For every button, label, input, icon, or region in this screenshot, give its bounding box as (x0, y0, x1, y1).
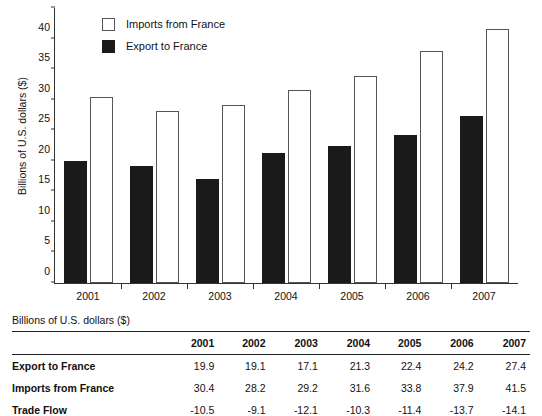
table-column-header: 2002 (218, 332, 269, 355)
x-tick-label: 2007 (472, 290, 495, 302)
table-cell: 30.4 (166, 377, 218, 399)
table-cell: -9.1 (218, 399, 269, 416)
y-tick-label: 40 (38, 21, 50, 33)
bar-group (385, 8, 451, 283)
y-axis-title: Billions of U.S. dollars ($) (16, 56, 28, 216)
bar-imports-from-france (486, 29, 509, 283)
y-tick-label: 0 (44, 265, 50, 277)
bar-chart-figure: Billions of U.S. dollars ($) 05101520253… (0, 0, 542, 305)
table-cell: 41.5 (478, 377, 530, 399)
y-tick-label: 15 (38, 173, 50, 185)
table-cell: -13.7 (425, 399, 477, 416)
y-tick-label: 5 (44, 234, 50, 246)
data-table-block: Billions of U.S. dollars ($) 20012002200… (12, 314, 530, 416)
x-tick-label: 2004 (274, 290, 297, 302)
x-tick-label: 2006 (406, 290, 429, 302)
legend-item: Export to France (102, 35, 225, 57)
table-cell: -14.1 (478, 399, 530, 416)
table-cell: 31.6 (322, 377, 374, 399)
x-tick-label: 2005 (340, 290, 363, 302)
y-tick-label: 10 (38, 204, 50, 216)
bar-group (319, 8, 385, 283)
table-row: Export to France19.919.117.121.322.424.2… (12, 355, 530, 378)
table-header-row: 2001200220032004200520062007 (12, 332, 530, 355)
bar-imports-from-france (156, 111, 179, 283)
table-cell: 27.4 (478, 355, 530, 378)
bar-export-to-france (64, 161, 87, 283)
table-body: Export to France19.919.117.121.322.424.2… (12, 355, 530, 416)
x-tick-label: 2002 (142, 290, 165, 302)
table-row-label: Export to France (12, 355, 166, 378)
table-head: 2001200220032004200520062007 (12, 332, 530, 355)
table-cell: 21.3 (322, 355, 374, 378)
x-tick-mark (319, 283, 320, 289)
bar-imports-from-france (354, 76, 377, 283)
bar-imports-from-france (90, 97, 113, 283)
table-column-header: 2004 (322, 332, 374, 355)
table-column-header: 2001 (166, 332, 218, 355)
x-tick-mark (121, 283, 122, 289)
bar-group (253, 8, 319, 283)
x-tick-label: 2001 (76, 290, 99, 302)
table-column-header: 2006 (425, 332, 477, 355)
bar-export-to-france (394, 135, 417, 283)
table-cell: 19.1 (218, 355, 269, 378)
table-cell: 24.2 (425, 355, 477, 378)
table-row: Trade Flow-10.5-9.1-12.1-10.3-11.4-13.7-… (12, 399, 530, 416)
table-cell: 22.4 (374, 355, 425, 378)
legend-label: Imports from France (126, 18, 225, 30)
table-cell: -11.4 (374, 399, 425, 416)
table-cell: -12.1 (270, 399, 322, 416)
bar-imports-from-france (420, 51, 443, 283)
x-tick-mark (253, 283, 254, 289)
x-tick-mark (451, 283, 452, 289)
chart-legend: Imports from FranceExport to France (102, 13, 225, 57)
legend-item: Imports from France (102, 13, 225, 35)
table-column-header: 2007 (478, 332, 530, 355)
table-cell: -10.3 (322, 399, 374, 416)
bar-export-to-france (130, 166, 153, 283)
bar-export-to-france (196, 179, 219, 284)
table-caption: Billions of U.S. dollars ($) (12, 314, 530, 326)
table-cell: 19.9 (166, 355, 218, 378)
bar-export-to-france (328, 146, 351, 283)
table-row: Imports from France30.428.229.231.633.83… (12, 377, 530, 399)
table-column-header: 2005 (374, 332, 425, 355)
legend-swatch-export (102, 40, 115, 53)
x-tick-mark (385, 283, 386, 289)
bar-imports-from-france (288, 90, 311, 283)
bar-export-to-france (460, 116, 483, 283)
y-tick-label: 25 (38, 112, 50, 124)
y-tick-label: 45 (38, 0, 50, 2)
table-row-label: Trade Flow (12, 399, 166, 416)
x-tick-mark (187, 283, 188, 289)
bar-group (451, 8, 517, 283)
bar-imports-from-france (222, 105, 245, 283)
table-row-label: Imports from France (12, 377, 166, 399)
table-cell: 17.1 (270, 355, 322, 378)
data-table: 2001200220032004200520062007 Export to F… (12, 331, 530, 416)
table-cell: -10.5 (166, 399, 218, 416)
bar-export-to-france (262, 153, 285, 283)
y-tick-label: 35 (38, 51, 50, 63)
table-cell: 28.2 (218, 377, 269, 399)
table-cell: 29.2 (270, 377, 322, 399)
table-cell: 37.9 (425, 377, 477, 399)
y-tick-label: 20 (38, 143, 50, 155)
table-corner-header (12, 332, 166, 355)
table-cell: 33.8 (374, 377, 425, 399)
x-tick-label: 2003 (208, 290, 231, 302)
legend-label: Export to France (126, 40, 207, 52)
table-column-header: 2003 (270, 332, 322, 355)
y-tick-label: 30 (38, 82, 50, 94)
legend-swatch-imports (102, 18, 115, 31)
